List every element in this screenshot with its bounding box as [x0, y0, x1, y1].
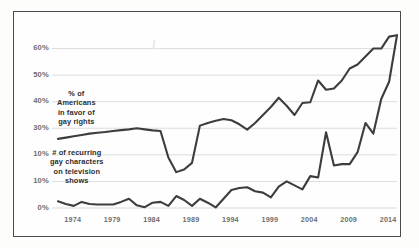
annotation-line: on television — [50, 167, 104, 176]
y-tick-label: 50% — [19, 70, 49, 79]
x-tick-label: 1989 — [174, 215, 208, 224]
series-line-public-opinion — [58, 35, 397, 172]
x-tick-label: 2004 — [292, 215, 326, 224]
series-label-public-opinion: % ofAmericansin favor ofgay rights — [57, 89, 96, 127]
gridlines-group — [52, 49, 397, 208]
annotation-line: shows — [50, 176, 104, 185]
x-tick-label: 2009 — [332, 215, 366, 224]
series-label-tv-characters: # of recurringgay characterson televisio… — [50, 148, 104, 186]
annotation-line: Americans — [57, 98, 96, 107]
x-tick-label: 1999 — [253, 215, 287, 224]
annotation-line: in favor of — [57, 108, 96, 117]
x-tick-label: 1994 — [213, 215, 247, 224]
chart-figure: 60%50%40%30%10%10%0% 1974197919841989199… — [0, 0, 419, 248]
x-tick-label: 2014 — [371, 215, 405, 224]
y-tick-label: 60% — [19, 43, 49, 52]
x-tick-label: 1974 — [56, 215, 90, 224]
y-tick-label: 40% — [19, 96, 49, 105]
annotation-line: # of recurring — [50, 148, 104, 157]
y-tick-label: 10% — [19, 176, 49, 185]
x-tick-label: 1979 — [95, 215, 129, 224]
y-tick-label: 0% — [19, 203, 49, 212]
annotation-line: % of — [57, 89, 96, 98]
annotation-line: gay characters — [50, 157, 104, 166]
x-tick-label: 1984 — [135, 215, 169, 224]
annotation-line: gay rights — [57, 117, 96, 126]
y-tick-label: 10% — [19, 149, 49, 158]
y-tick-label: 30% — [19, 123, 49, 132]
